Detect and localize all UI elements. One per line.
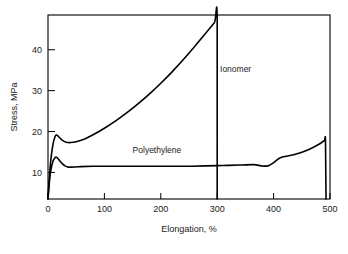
stress-strain-chart: 0100200300400500 10203040 IonomerPolyeth… [0,0,348,254]
x-tick-label-300: 300 [210,204,225,214]
x-axis-title: Elongation, % [161,224,217,234]
annotation-polyethylene: Polyethylene [133,145,182,155]
y-axis-title: Stress, MPa [9,82,19,131]
annotation-ionomer: Ionomer [220,64,251,74]
chart-canvas: 0100200300400500 10203040 IonomerPolyeth… [0,0,348,254]
x-tick-label-100: 100 [97,204,112,214]
x-tick-label-200: 200 [153,204,168,214]
x-tick-label-0: 0 [45,204,50,214]
y-tick-label-30: 30 [32,86,42,96]
y-tick-label-20: 20 [32,127,42,137]
x-tick-label-400: 400 [266,204,281,214]
x-tick-label-500: 500 [322,204,337,214]
chart-background [0,0,348,254]
y-tick-label-40: 40 [32,45,42,55]
y-tick-label-10: 10 [32,168,42,178]
